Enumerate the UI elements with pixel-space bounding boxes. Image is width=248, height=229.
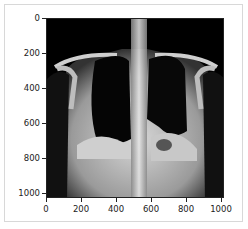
x-tick-mark bbox=[221, 198, 222, 202]
x-tick-mark bbox=[151, 198, 152, 202]
xray-image bbox=[46, 18, 224, 198]
y-tick-label: 400 bbox=[6, 83, 40, 93]
y-tick-label: 600 bbox=[6, 118, 40, 128]
y-tick-label: 1000 bbox=[6, 188, 40, 198]
y-tick-mark bbox=[42, 158, 46, 159]
x-tick-label: 600 bbox=[136, 204, 166, 214]
y-tick-label: 200 bbox=[6, 48, 40, 58]
x-tick-label: 800 bbox=[171, 204, 201, 214]
y-tick-mark bbox=[42, 193, 46, 194]
x-tick-label: 200 bbox=[66, 204, 96, 214]
x-tick-label: 0 bbox=[31, 204, 61, 214]
x-tick-mark bbox=[46, 198, 47, 202]
y-tick-mark bbox=[42, 123, 46, 124]
y-tick-mark bbox=[42, 53, 46, 54]
y-tick-label: 800 bbox=[6, 153, 40, 163]
x-tick-mark bbox=[116, 198, 117, 202]
x-tick-label: 1000 bbox=[206, 204, 236, 214]
x-tick-mark bbox=[186, 198, 187, 202]
y-tick-mark bbox=[42, 88, 46, 89]
x-tick-label: 400 bbox=[101, 204, 131, 214]
y-tick-label: 0 bbox=[6, 13, 40, 23]
y-tick-mark bbox=[42, 18, 46, 19]
x-tick-mark bbox=[81, 198, 82, 202]
